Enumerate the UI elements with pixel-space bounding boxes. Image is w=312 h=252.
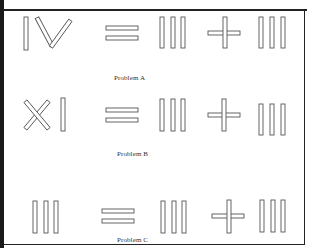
- problem-b-label: Problem B: [117, 150, 148, 158]
- problem-a-equation: [24, 17, 285, 50]
- problem-b-plus-sign: [208, 99, 240, 131]
- problem-c-equation: [33, 200, 285, 233]
- problem-c-left-numeral-iii: [33, 201, 58, 233]
- problem-b-left-numeral-xi: [24, 98, 65, 131]
- problem-a-right-numeral-iii: [259, 17, 285, 48]
- problem-c-right-numeral-iii: [260, 200, 285, 232]
- problem-a-label: Problem A: [114, 74, 145, 82]
- problem-c-equals-sign: [102, 209, 134, 223]
- problem-b-equation: [24, 98, 285, 135]
- problem-b-right-numeral-iii: [259, 104, 285, 135]
- problem-a-equals-sign: [106, 26, 138, 40]
- problem-a-left-numeral-iv: [24, 17, 72, 50]
- problem-c-label: Problem C: [117, 236, 148, 244]
- problem-c-middle-numeral-iii: [161, 201, 186, 233]
- problem-a-middle-numeral-iii: [160, 17, 185, 48]
- problem-b-middle-numeral-iii: [160, 99, 185, 131]
- problem-a-plus-sign: [208, 17, 240, 48]
- problem-c-plus-sign: [212, 200, 244, 233]
- matchstick-figure: [0, 0, 312, 252]
- problem-b-equals-sign: [106, 108, 138, 122]
